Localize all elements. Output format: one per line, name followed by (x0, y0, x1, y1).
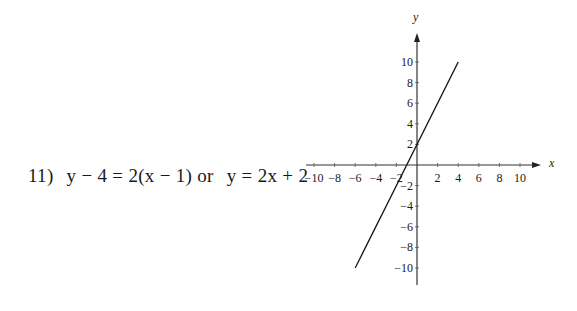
y-axis-arrow-icon (414, 33, 420, 42)
x-tick-label: −10 (305, 171, 324, 185)
x-tick-label: 10 (514, 171, 526, 185)
x-tick-label: 8 (496, 171, 502, 185)
y-tick-label: −10 (394, 261, 413, 275)
y-tick-label: −8 (400, 240, 413, 254)
x-tick-label: −6 (349, 171, 362, 185)
y-tick-label: 6 (407, 96, 413, 110)
x-tick-label: 2 (435, 171, 441, 185)
y-tick-label: 8 (407, 76, 413, 90)
x-tick-label: −4 (369, 171, 382, 185)
y-tick-label: 4 (407, 117, 413, 131)
x-tick-label: 4 (455, 171, 461, 185)
x-tick-label: −8 (328, 171, 341, 185)
y-tick-label: −6 (400, 220, 413, 234)
y-tick-label: −4 (400, 199, 413, 213)
x-tick-label: 6 (476, 171, 482, 185)
y-tick-label: 2 (407, 137, 413, 151)
coordinate-graph: xy−10−8−6−4−2246810108642−2−4−6−8−10 (0, 0, 577, 311)
y-tick-label: 10 (401, 55, 413, 69)
y-axis-label: y (412, 10, 419, 24)
x-axis-label: x (548, 156, 555, 170)
y-tick-label: −2 (400, 179, 413, 193)
x-axis-arrow-icon (532, 162, 541, 168)
